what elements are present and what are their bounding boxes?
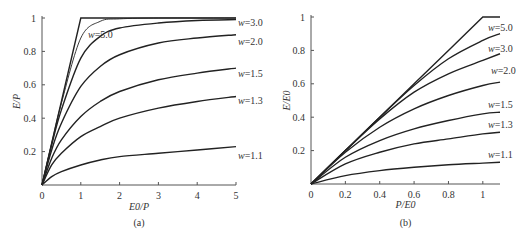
- y-tick-label: 0.4: [293, 112, 306, 123]
- x-tick-label: 4: [195, 190, 200, 201]
- x-tick-label: 2: [117, 190, 122, 201]
- panel-caption: (b): [400, 217, 412, 229]
- x-tick-label: 0: [40, 190, 45, 201]
- curve-label: w=2.0: [491, 65, 516, 76]
- x-tick-label: 0: [309, 189, 314, 200]
- curve-label: w=3.0: [488, 43, 513, 54]
- y-tick-label: 0.4: [24, 113, 37, 124]
- y-tick-label: 0.2: [24, 146, 37, 157]
- x-tick-label: 0.4: [373, 189, 386, 200]
- curve-label: w=1.1: [488, 149, 513, 160]
- chart-panel-b: 00.20.40.60.810.20.40.60.81P/E0E/E0(b)w=…: [281, 12, 516, 230]
- curve-label: w=1.3: [488, 119, 513, 130]
- y-tick-label: 0.8: [293, 45, 306, 56]
- y-tick-label: 0.8: [24, 46, 37, 57]
- series-line-ideal: [311, 17, 500, 184]
- chart-panel-a: 0123450.20.40.60.81E0/PE/P(a)w=5.0w=3.0w…: [11, 13, 263, 230]
- series-line-ideal: [42, 18, 236, 185]
- curve-label: w=1.3: [238, 95, 263, 106]
- series-line-w-5-0: [42, 18, 236, 185]
- curve-label: w=5.0: [488, 22, 513, 33]
- curve-label: w=1.1: [238, 150, 263, 161]
- curve-label: w=1.5: [238, 68, 263, 79]
- x-tick-label: 1: [480, 189, 485, 200]
- series-line-w-1-5: [311, 112, 500, 184]
- x-axis-label: P/E0: [395, 199, 416, 210]
- series-line-w-3-0: [311, 54, 500, 184]
- series-line-w-1-1: [42, 147, 236, 185]
- panel-caption: (a): [133, 217, 144, 229]
- x-tick-label: 1: [78, 190, 83, 201]
- curve-label: w=1.5: [488, 99, 513, 110]
- y-tick-label: 0.6: [293, 78, 306, 89]
- y-tick-label: 1: [31, 13, 36, 24]
- y-axis-label: E/P: [11, 94, 22, 110]
- x-tick-label: 0.2: [339, 189, 352, 200]
- x-axis-label: E0/P: [128, 201, 149, 212]
- y-axis-label: E/E0: [281, 91, 292, 112]
- series-line-w-1-1: [311, 162, 500, 184]
- x-tick-label: 3: [156, 190, 161, 201]
- y-tick-label: 0.2: [293, 145, 306, 156]
- y-tick-label: 0.6: [24, 79, 37, 90]
- y-tick-label: 1: [300, 12, 305, 23]
- figure: 0123450.20.40.60.81E0/PE/P(a)w=5.0w=3.0w…: [0, 0, 521, 245]
- series-line-w-1-3: [42, 96, 236, 185]
- x-tick-label: 0.8: [442, 189, 455, 200]
- curve-label: w=5.0: [88, 29, 113, 40]
- curve-label: w=2.0: [238, 36, 263, 47]
- curve-label: w=3.0: [238, 17, 263, 28]
- x-tick-label: 5: [234, 190, 239, 201]
